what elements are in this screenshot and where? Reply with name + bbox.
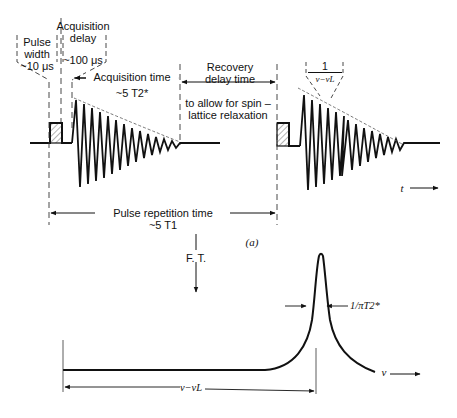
part-a-label: (a) <box>240 236 264 248</box>
pulse-width-label: Pulse width ~10 μs <box>18 36 56 72</box>
recovery-delay-label: Recovery delay time <box>190 61 270 85</box>
offset-label: ν−νL <box>176 382 206 394</box>
fid-2 <box>300 95 440 190</box>
acquisition-time-label: Acquisition time ~5 T2* <box>86 71 178 99</box>
pulse-repetition-label: Pulse repetition time ~5 T1 <box>96 207 230 231</box>
pulse-hatched-1 <box>50 123 62 143</box>
fourier-transform-label: F. T. <box>180 252 212 264</box>
spectrum <box>63 254 420 394</box>
pulse-sequence-2 <box>277 88 440 190</box>
lorentzian-peak <box>63 254 375 372</box>
time-axis-label: t <box>396 182 408 194</box>
pulse-hatched-2 <box>277 123 289 146</box>
frequency-axis-label: ν <box>378 366 390 378</box>
period-label: 1 ν−νL <box>308 60 342 85</box>
relaxation-note-label: to allow for spin – lattice relaxation <box>180 97 276 121</box>
acquisition-delay-label: Acquisition delay ~100 μs <box>52 20 114 66</box>
linewidth-label: 1/πT2* <box>350 300 400 312</box>
